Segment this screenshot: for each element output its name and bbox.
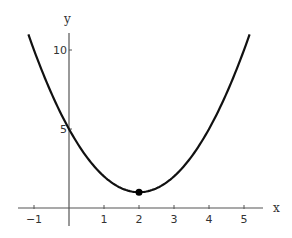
parabola-chart: −112345510 x y xyxy=(0,0,292,238)
vertex-point xyxy=(136,189,143,196)
x-tick-label: 3 xyxy=(171,213,178,226)
x-tick-label: 2 xyxy=(136,213,143,226)
x-axis-label: x xyxy=(273,201,280,215)
x-tick-label: 5 xyxy=(241,213,248,226)
axes xyxy=(18,33,263,226)
y-axis-label: y xyxy=(63,12,71,26)
x-tick-label: 4 xyxy=(206,213,213,226)
y-tick-label: 10 xyxy=(53,44,67,57)
parabola-curve xyxy=(28,34,249,192)
x-tick-label: 1 xyxy=(101,213,108,226)
ticks: −112345510 xyxy=(26,44,248,226)
x-tick-label: −1 xyxy=(26,213,42,226)
